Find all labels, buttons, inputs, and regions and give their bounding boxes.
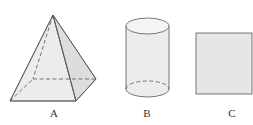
label-a: A [44, 107, 64, 119]
cylinder-b [126, 18, 169, 97]
square-c [196, 33, 252, 94]
pyramid-a [10, 15, 96, 101]
label-c: C [222, 107, 242, 119]
figure-canvas [0, 0, 253, 125]
label-b: B [137, 107, 157, 119]
